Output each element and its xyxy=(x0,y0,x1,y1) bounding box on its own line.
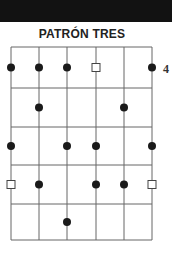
note-dot xyxy=(63,218,71,226)
fretboard-grid xyxy=(11,47,152,240)
root-note-square xyxy=(148,181,156,189)
note-dot xyxy=(35,64,43,72)
note-dot xyxy=(63,142,71,150)
note-dot xyxy=(7,142,15,150)
root-note-square xyxy=(7,181,15,189)
fret-number-label: 4 xyxy=(163,62,169,76)
note-dot xyxy=(7,64,15,72)
note-dot xyxy=(35,181,43,189)
note-dot xyxy=(35,104,43,112)
note-dot xyxy=(120,104,128,112)
note-dot xyxy=(148,64,156,72)
note-dot xyxy=(63,64,71,72)
root-note-square xyxy=(92,64,100,72)
note-dot xyxy=(120,181,128,189)
note-dot xyxy=(148,142,156,150)
note-dot xyxy=(92,142,100,150)
note-dot xyxy=(92,181,100,189)
fretboard-diagram: 4 xyxy=(0,0,172,256)
